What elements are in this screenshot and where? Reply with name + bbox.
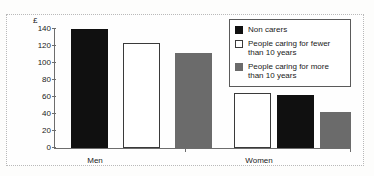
y-axis-tick-20: 20 <box>27 127 51 135</box>
legend-swatch-white-icon <box>235 40 243 48</box>
x-axis-line <box>54 148 351 149</box>
chart-figure: £ 140 120 100 80 60 40 20 0 Men Women No… <box>6 14 364 166</box>
legend-swatch-black-icon <box>235 26 243 34</box>
legend-label-fewer-than-10-years: People caring for fewerthan 10 years <box>248 39 330 58</box>
y-tick-label: 80 <box>42 75 51 84</box>
chart-legend: Non carers People caring for fewerthan 1… <box>229 19 351 87</box>
bar-women-more-10-years <box>320 112 351 148</box>
y-axis-tick-140: 140 <box>27 25 51 33</box>
legend-label-line1: People caring for fewer <box>248 39 330 48</box>
y-tick-label: 100 <box>38 58 51 67</box>
plot-area: £ 140 120 100 80 60 40 20 0 Men Women No… <box>7 15 363 165</box>
bar-men-fewer-10-years <box>123 43 160 148</box>
x-axis-tick-end <box>350 148 351 152</box>
y-axis-tick-120: 120 <box>27 42 51 50</box>
y-axis-tick-40: 40 <box>27 110 51 118</box>
y-tick-label: 60 <box>42 92 51 101</box>
x-axis-label-men: Men <box>55 156 135 165</box>
y-axis-tick-100: 100 <box>27 59 51 67</box>
y-tick-label: 20 <box>42 126 51 135</box>
y-axis-tick-0: 0 <box>27 144 51 152</box>
legend-label-non-carers: Non carers <box>248 25 287 35</box>
bar-men-more-10-years <box>175 53 212 148</box>
bar-men-non-carers <box>71 29 108 148</box>
y-tick-label: 140 <box>38 24 51 33</box>
y-tick-label: 0 <box>47 143 51 152</box>
y-tick-label: 40 <box>42 109 51 118</box>
bar-women-fewer-10-years <box>234 93 271 148</box>
y-tick-label: 120 <box>38 41 51 50</box>
legend-label-line2: than 10 years <box>248 48 296 57</box>
legend-label-line1: People caring for more <box>248 62 329 71</box>
x-axis-label-women: Women <box>219 156 299 165</box>
x-axis-tick-divider <box>185 148 186 152</box>
legend-item-non-carers: Non carers <box>235 25 345 35</box>
y-axis-tick-60: 60 <box>27 93 51 101</box>
legend-item-fewer-than-10-years: People caring for fewerthan 10 years <box>235 39 345 58</box>
bar-women-non-carers <box>277 95 314 148</box>
y-axis-tick-80: 80 <box>27 76 51 84</box>
legend-label-more-than-10-years: People caring for morethan 10 years <box>248 62 329 81</box>
legend-label-line2: than 10 years <box>248 71 296 80</box>
legend-item-more-than-10-years: People caring for morethan 10 years <box>235 62 345 81</box>
legend-swatch-gray-icon <box>235 63 243 71</box>
